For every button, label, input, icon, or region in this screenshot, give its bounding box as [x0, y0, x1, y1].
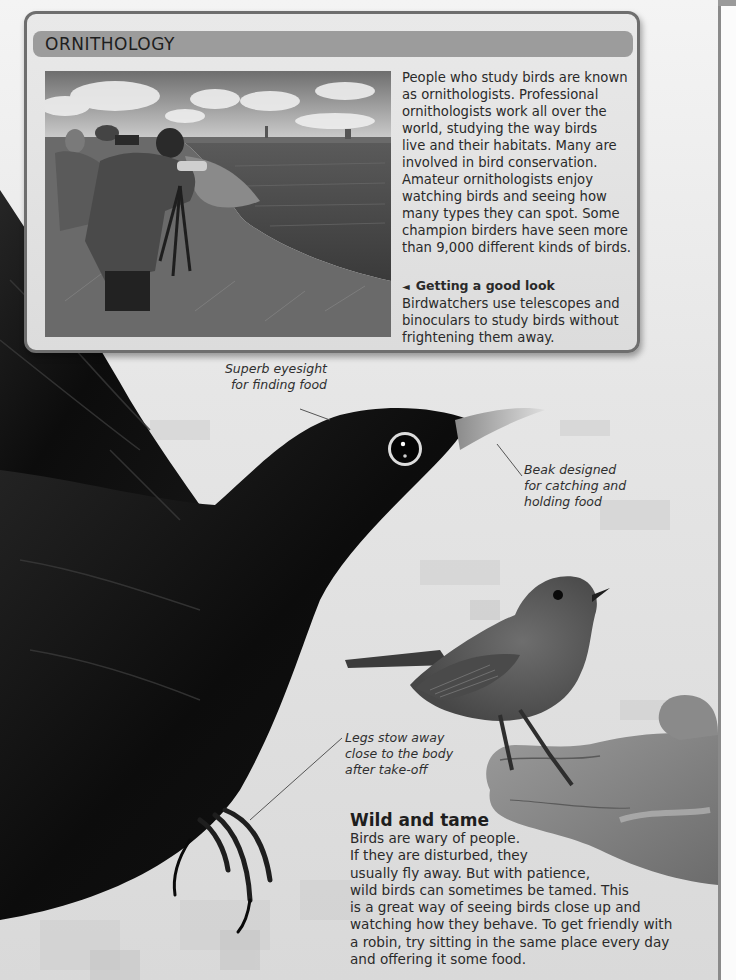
- body-line: as ornithologists. Professional: [402, 86, 634, 103]
- ornithology-body-text: People who study birds are known as orni…: [402, 69, 634, 256]
- annotation-legs-line-2: close to the body: [345, 746, 495, 762]
- annotation-legs: Legs stow away close to the body after t…: [345, 730, 495, 778]
- caption-line: binoculars to study birds without: [402, 312, 634, 329]
- wild-and-tame-body: Birds are wary of people. If they are di…: [350, 830, 720, 968]
- wild-line: watching how they behave. To get friendl…: [350, 916, 720, 933]
- page-edge-strip: [718, 0, 736, 980]
- wild-line: Birds are wary of people.: [350, 830, 720, 847]
- body-line: ornithologists work all over the: [402, 103, 634, 120]
- annotation-beak-line-2: for catching and: [524, 478, 674, 494]
- birdwatchers-photo-image: [45, 71, 391, 337]
- body-line: Amateur ornithologists enjoy: [402, 171, 634, 188]
- body-line: live and their habitats. Many are: [402, 137, 634, 154]
- body-line: involved in bird conservation.: [402, 154, 634, 171]
- caption-heading: ◄Getting a good look: [402, 277, 634, 295]
- body-line: many types they can spot. Some: [402, 205, 634, 222]
- wild-line: a robin, try sitting in the same place e…: [350, 934, 720, 951]
- ornithology-panel: ORNITHOLOGY: [24, 11, 640, 353]
- annotation-legs-line-3: after take-off: [345, 762, 495, 778]
- annotation-eyesight: Superb eyesight for finding food: [197, 361, 327, 393]
- wild-line: and offering it some food.: [350, 951, 720, 968]
- wild-and-tame-title: Wild and tame: [350, 810, 720, 830]
- annotation-beak: Beak designed for catching and holding f…: [524, 462, 674, 510]
- body-line: People who study birds are known: [402, 69, 634, 86]
- wild-line: usually fly away. But with patience,: [350, 865, 720, 882]
- left-pointer-icon: ◄: [402, 281, 410, 292]
- panel-header-bar: ORNITHOLOGY: [33, 31, 633, 57]
- annotation-legs-line-1: Legs stow away: [345, 730, 495, 746]
- panel-title: ORNITHOLOGY: [45, 34, 175, 54]
- body-line: champion birders have seen more: [402, 222, 634, 239]
- body-line: than 9,000 different kinds of birds.: [402, 239, 634, 256]
- annotation-eyesight-line-1: Superb eyesight: [197, 361, 327, 377]
- photo-caption: ◄Getting a good look Birdwatchers use te…: [402, 277, 634, 346]
- wild-line: is a great way of seeing birds close up …: [350, 899, 720, 916]
- wild-line: If they are disturbed, they: [350, 847, 720, 864]
- caption-line: Birdwatchers use telescopes and: [402, 295, 634, 312]
- wild-line: wild birds can sometimes be tamed. This: [350, 882, 720, 899]
- body-line: watching birds and seeing how: [402, 188, 634, 205]
- birdwatchers-photo: [45, 71, 391, 337]
- annotation-eyesight-line-2: for finding food: [197, 377, 327, 393]
- annotation-beak-line-1: Beak designed: [524, 462, 674, 478]
- caption-line: frightening them away.: [402, 329, 634, 346]
- page-edge-strip-top: [718, 0, 736, 6]
- annotation-beak-line-3: holding food: [524, 494, 674, 510]
- wild-and-tame-section: Wild and tame Birds are wary of people. …: [350, 810, 720, 968]
- body-line: world, studying the way birds: [402, 120, 634, 137]
- caption-heading-text: Getting a good look: [416, 278, 555, 293]
